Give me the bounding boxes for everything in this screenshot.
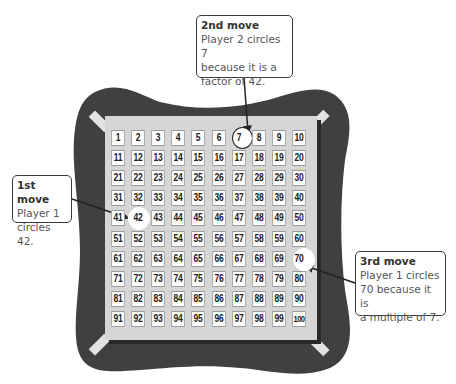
number-cell-46[interactable]: 46 [212,210,226,226]
number-cell-80[interactable]: 80 [292,271,306,287]
number-cell-96[interactable]: 96 [212,311,226,327]
number-cell-7[interactable]: 7 [232,130,246,146]
number-cell-98[interactable]: 98 [252,311,266,327]
number-cell-52[interactable]: 52 [131,231,145,247]
number-cell-72[interactable]: 72 [131,271,145,287]
number-cell-34[interactable]: 34 [171,190,185,206]
number-cell-92[interactable]: 92 [131,311,145,327]
number-cell-69[interactable]: 69 [272,251,286,267]
number-cell-51[interactable]: 51 [111,231,125,247]
number-cell-68[interactable]: 68 [252,251,266,267]
number-cell-59[interactable]: 59 [272,231,286,247]
number-cell-86[interactable]: 86 [212,291,226,307]
number-cell-58[interactable]: 58 [252,231,266,247]
number-cell-85[interactable]: 85 [192,291,206,307]
number-cell-63[interactable]: 63 [151,251,165,267]
number-cell-73[interactable]: 73 [151,271,165,287]
number-cell-55[interactable]: 55 [192,231,206,247]
number-cell-24[interactable]: 24 [171,170,185,186]
number-cell-65[interactable]: 65 [192,251,206,267]
number-cell-27[interactable]: 27 [232,170,246,186]
number-cell-6[interactable]: 6 [212,130,226,146]
number-cell-43[interactable]: 43 [151,210,165,226]
number-cell-16[interactable]: 16 [212,150,226,166]
number-cell-49[interactable]: 49 [272,210,286,226]
number-cell-54[interactable]: 54 [171,231,185,247]
number-cell-77[interactable]: 77 [232,271,246,287]
number-cell-23[interactable]: 23 [151,170,165,186]
number-cell-84[interactable]: 84 [171,291,185,307]
number-cell-41[interactable]: 41 [111,210,125,226]
number-cell-1[interactable]: 1 [111,130,125,146]
number-cell-91[interactable]: 91 [111,311,125,327]
number-cell-45[interactable]: 45 [192,210,206,226]
number-cell-42[interactable]: 42 [131,210,145,226]
number-cell-83[interactable]: 83 [151,291,165,307]
number-cell-32[interactable]: 32 [131,190,145,206]
number-cell-61[interactable]: 61 [111,251,125,267]
number-cell-3[interactable]: 3 [151,130,165,146]
number-cell-48[interactable]: 48 [252,210,266,226]
number-cell-5[interactable]: 5 [192,130,206,146]
number-cell-99[interactable]: 99 [272,311,286,327]
number-cell-15[interactable]: 15 [192,150,206,166]
number-cell-37[interactable]: 37 [232,190,246,206]
number-cell-94[interactable]: 94 [171,311,185,327]
number-cell-28[interactable]: 28 [252,170,266,186]
number-cell-25[interactable]: 25 [192,170,206,186]
number-cell-75[interactable]: 75 [192,271,206,287]
number-cell-12[interactable]: 12 [131,150,145,166]
number-cell-31[interactable]: 31 [111,190,125,206]
number-cell-66[interactable]: 66 [212,251,226,267]
number-cell-36[interactable]: 36 [212,190,226,206]
number-cell-26[interactable]: 26 [212,170,226,186]
number-cell-10[interactable]: 10 [292,130,306,146]
number-cell-20[interactable]: 20 [292,150,306,166]
number-cell-62[interactable]: 62 [131,251,145,267]
number-cell-78[interactable]: 78 [252,271,266,287]
number-cell-90[interactable]: 90 [292,291,306,307]
number-cell-93[interactable]: 93 [151,311,165,327]
number-cell-19[interactable]: 19 [272,150,286,166]
number-cell-74[interactable]: 74 [171,271,185,287]
number-cell-50[interactable]: 50 [292,210,306,226]
number-cell-33[interactable]: 33 [151,190,165,206]
number-cell-35[interactable]: 35 [192,190,206,206]
number-cell-76[interactable]: 76 [212,271,226,287]
number-cell-4[interactable]: 4 [171,130,185,146]
number-cell-89[interactable]: 89 [272,291,286,307]
number-cell-38[interactable]: 38 [252,190,266,206]
number-cell-82[interactable]: 82 [131,291,145,307]
number-cell-8[interactable]: 8 [252,130,266,146]
number-cell-88[interactable]: 88 [252,291,266,307]
number-cell-22[interactable]: 22 [131,170,145,186]
number-cell-40[interactable]: 40 [292,190,306,206]
number-cell-79[interactable]: 79 [272,271,286,287]
number-cell-9[interactable]: 9 [272,130,286,146]
number-cell-21[interactable]: 21 [111,170,125,186]
number-cell-100[interactable]: 100 [292,311,306,327]
number-cell-29[interactable]: 29 [272,170,286,186]
number-cell-64[interactable]: 64 [171,251,185,267]
number-cell-71[interactable]: 71 [111,271,125,287]
number-cell-67[interactable]: 67 [232,251,246,267]
number-cell-70[interactable]: 70 [292,251,306,267]
number-cell-17[interactable]: 17 [232,150,246,166]
number-cell-95[interactable]: 95 [192,311,206,327]
number-cell-18[interactable]: 18 [252,150,266,166]
number-cell-30[interactable]: 30 [292,170,306,186]
number-cell-56[interactable]: 56 [212,231,226,247]
number-cell-97[interactable]: 97 [232,311,246,327]
number-cell-44[interactable]: 44 [171,210,185,226]
number-cell-47[interactable]: 47 [232,210,246,226]
number-cell-87[interactable]: 87 [232,291,246,307]
number-cell-13[interactable]: 13 [151,150,165,166]
number-cell-81[interactable]: 81 [111,291,125,307]
number-cell-2[interactable]: 2 [131,130,145,146]
number-cell-39[interactable]: 39 [272,190,286,206]
number-cell-57[interactable]: 57 [232,231,246,247]
number-cell-60[interactable]: 60 [292,231,306,247]
number-cell-11[interactable]: 11 [111,150,125,166]
number-cell-53[interactable]: 53 [151,231,165,247]
number-cell-14[interactable]: 14 [171,150,185,166]
